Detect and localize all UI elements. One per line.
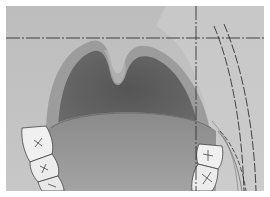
oral-cavity-illustration [6, 6, 264, 191]
tongue [46, 112, 216, 191]
